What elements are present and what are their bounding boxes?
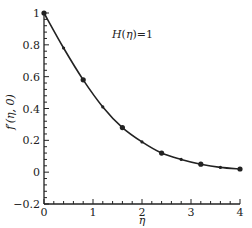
annotation-label: H(η)=1 bbox=[111, 28, 153, 41]
y-tick-label: 0.8 bbox=[23, 39, 41, 52]
large-marker bbox=[198, 162, 203, 167]
chart: 01234−0.200.20.40.60.81 H(η)=1 η f′(η, 0… bbox=[0, 0, 252, 228]
y-tick-label: 0.4 bbox=[23, 103, 41, 116]
small-marker bbox=[219, 166, 222, 169]
y-tick-label: 0 bbox=[33, 166, 40, 179]
y-tick-label: −0.2 bbox=[13, 198, 40, 211]
x-tick-label: 4 bbox=[237, 206, 244, 219]
large-marker bbox=[81, 77, 86, 82]
y-axis-label: f′(η, 0) bbox=[4, 94, 17, 131]
large-marker bbox=[120, 125, 125, 130]
y-tick-label: 1 bbox=[33, 7, 40, 20]
axes bbox=[44, 13, 240, 204]
small-marker bbox=[180, 158, 183, 161]
x-tick-label: 0 bbox=[41, 206, 48, 219]
x-tick-label: 3 bbox=[188, 206, 195, 219]
x-tick-label: 1 bbox=[90, 206, 97, 219]
tick-marks bbox=[44, 13, 240, 204]
y-tick-label: 0.2 bbox=[23, 134, 41, 147]
large-marker bbox=[41, 10, 46, 15]
large-marker bbox=[237, 166, 242, 171]
small-marker bbox=[140, 140, 143, 143]
small-marker bbox=[62, 46, 65, 49]
x-axis-label: η bbox=[139, 214, 146, 227]
small-marker bbox=[101, 105, 104, 108]
y-tick-label: 0.6 bbox=[23, 71, 41, 84]
large-marker bbox=[159, 150, 164, 155]
